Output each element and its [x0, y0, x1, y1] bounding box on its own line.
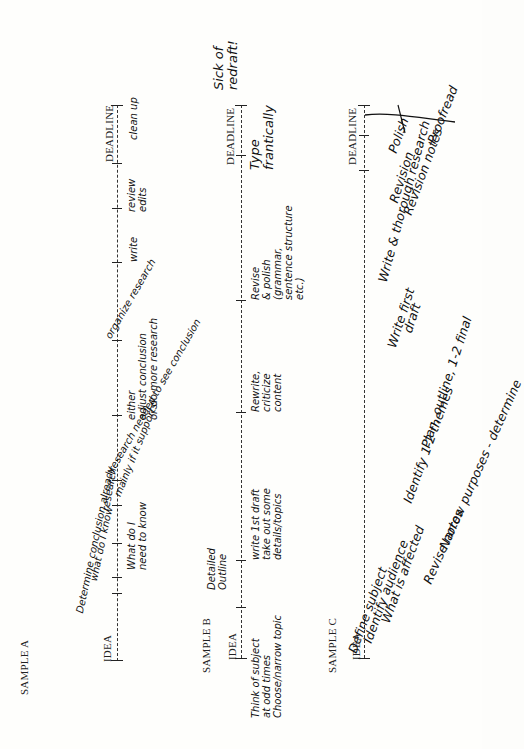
sample-a-note: What do I need to know	[126, 502, 148, 570]
sample-b-note: Sick of redraft!	[212, 40, 240, 90]
sample-c-note: Plan, outline, 1-2 final	[418, 315, 475, 450]
sample-c-idea-cap	[358, 658, 370, 659]
sample-a-deadline-label: DEADLINE	[103, 105, 115, 162]
sample-a-tick	[112, 577, 122, 578]
sample-a-tick	[112, 415, 122, 416]
sample-c-timeline-axis	[364, 105, 365, 658]
sample-a-idea-label: IDEA	[101, 635, 113, 662]
sample-a-title: SAMPLE A	[18, 640, 30, 695]
sample-b-note: Revise & polish (grammar, sentence struc…	[250, 205, 305, 300]
sample-a-tick	[112, 163, 122, 164]
sample-a-note: write	[128, 237, 139, 262]
sample-b-note: write 1st draft take out some details/to…	[250, 488, 283, 560]
sample-b-idea-label: IDEA	[226, 633, 238, 660]
sample-c-tick	[359, 170, 369, 171]
sample-b-deadline-cap	[235, 105, 247, 106]
sample-b-tick	[236, 607, 246, 608]
sample-a-note: review edits	[126, 179, 148, 212]
sample-b-tick	[236, 300, 246, 301]
sample-b-idea-cap	[235, 658, 247, 659]
sample-b-note: Detailed Outline	[206, 548, 228, 590]
sample-a-tick	[112, 543, 122, 544]
sample-b-note: Type frantically	[248, 105, 276, 170]
sample-b-tick	[236, 560, 246, 561]
sample-c-connector-stroke	[360, 100, 470, 140]
sample-a-tick	[112, 593, 122, 594]
sample-b-title: SAMPLE B	[200, 618, 212, 673]
sample-b-tick	[236, 412, 246, 413]
sample-c-title: SAMPLE C	[326, 618, 338, 673]
sample-c-deadline-label: DEADLINE	[346, 108, 358, 165]
sample-b-deadline-label: DEADLINE	[224, 108, 236, 165]
sample-b-timeline-axis	[241, 105, 242, 658]
sample-a-idea-cap	[111, 660, 123, 661]
sample-b-note: Think of subject at odd times Choose/nar…	[250, 615, 283, 718]
sample-a-tick	[112, 340, 122, 341]
sample-a-tick	[112, 262, 122, 263]
sample-a-tick	[112, 505, 122, 506]
sample-b-note: Rewrite, criticize content	[250, 371, 283, 412]
sample-a-tick	[112, 208, 122, 209]
sample-a-deadline-cap	[111, 105, 123, 106]
sample-a-note: clean up	[128, 97, 139, 140]
sample-b-tick	[236, 155, 246, 156]
